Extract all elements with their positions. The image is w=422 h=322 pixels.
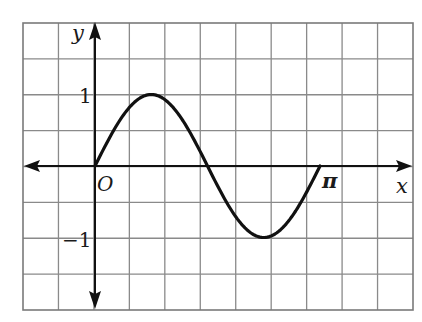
y-axis-label: y (71, 21, 85, 45)
y-tick-label-1: 1 (79, 84, 92, 108)
sine-chart: y x O π 1 −1 (0, 0, 422, 322)
x-axis-label: x (396, 174, 408, 198)
origin-label: O (97, 172, 113, 196)
x-axis (24, 160, 412, 172)
y-tick-label-minus-1: −1 (62, 228, 91, 252)
pi-tick-label: π (321, 168, 338, 193)
